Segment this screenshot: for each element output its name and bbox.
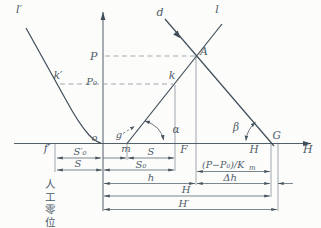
label-p0: P₀: [85, 76, 97, 87]
label-line-l: l: [215, 3, 219, 16]
dim-delta-h: Δh: [222, 172, 237, 183]
label-F: F: [179, 143, 188, 155]
g-leader-line: [123, 127, 135, 134]
label-g: g: [116, 129, 122, 140]
dim-s0-prime: S′₀: [73, 146, 86, 157]
beta-angle-arc: [246, 123, 256, 141]
dim-s-left: S: [75, 158, 82, 169]
label-f-prime: f′: [43, 142, 51, 155]
dim-s0: S₀: [136, 159, 147, 170]
label-k-prime: k′: [53, 69, 63, 82]
label-G: G: [273, 129, 281, 141]
dim-H: H: [181, 184, 191, 195]
diagram-canvas: l′ d l P P₀ H k′ k A g m o f′ F H G α β …: [0, 0, 321, 228]
artificial-zero-annotation: 人工零位: [41, 179, 56, 228]
label-line-d: d: [156, 6, 163, 19]
alpha-angle-arc: [145, 121, 164, 140]
dim-formula: (P−P₀)/K: [202, 159, 245, 170]
label-line-l-prime: l′: [16, 3, 23, 16]
label-k: k: [169, 69, 176, 82]
label-o: o: [91, 132, 97, 143]
label-alpha: α: [172, 123, 179, 135]
label-m: m: [121, 143, 130, 154]
line-d: [165, 19, 274, 146]
dim-h: h: [148, 172, 154, 183]
label-h-axis: H: [302, 143, 313, 156]
dim-s-top: S: [148, 146, 155, 157]
label-beta: β: [232, 121, 239, 133]
dim-formula-subscript: m: [249, 164, 256, 172]
label-p: P: [89, 50, 98, 63]
dim-H-prime: H′: [178, 198, 191, 209]
label-H-point: H: [248, 143, 259, 155]
label-A: A: [199, 45, 208, 58]
